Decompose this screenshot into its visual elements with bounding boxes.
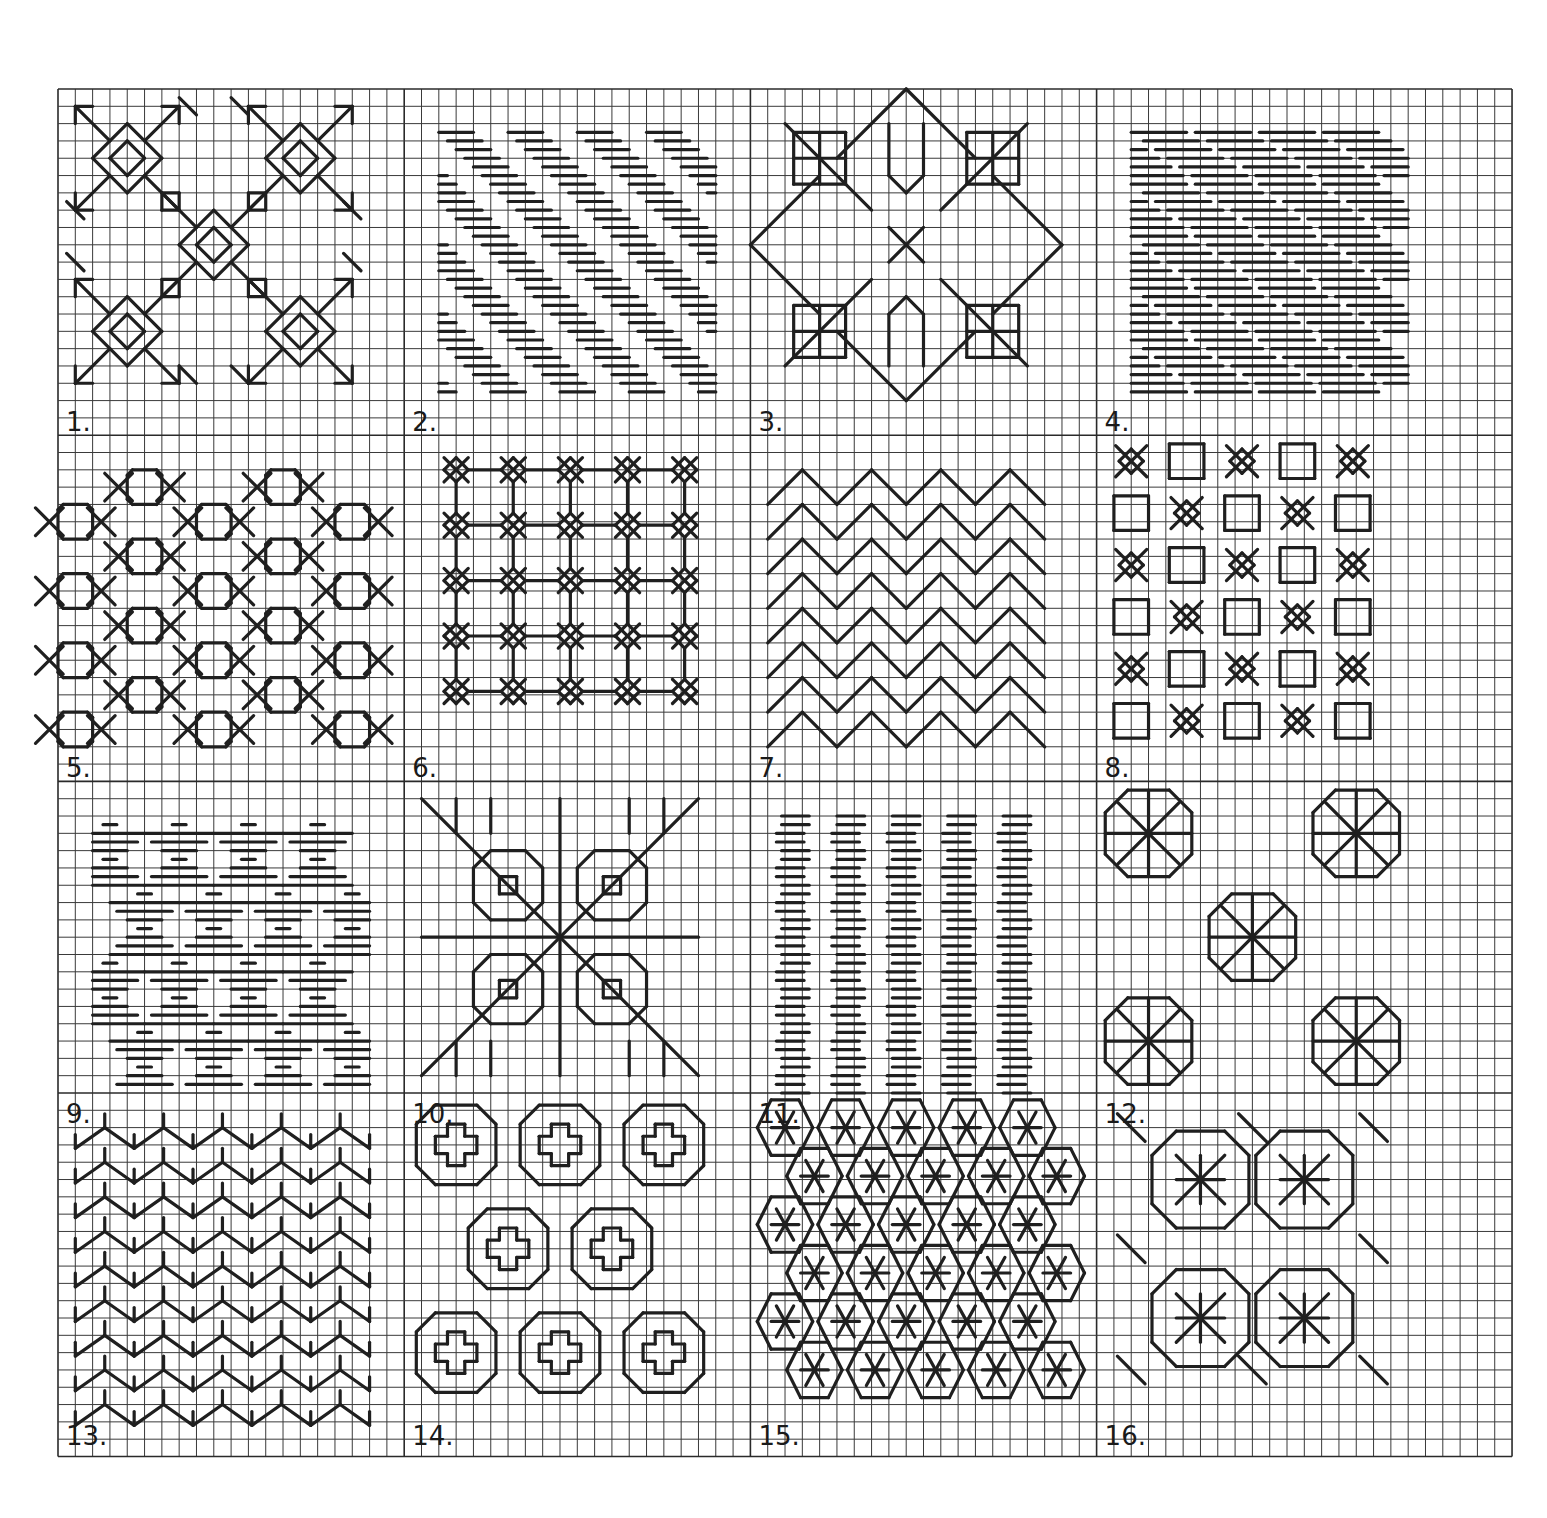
pattern-label: 6. xyxy=(412,753,437,783)
blackwork-sampler-sheet: 1.2.3.4.5.6.7.8.9.10.11.12.13.14.15.16. xyxy=(0,0,1547,1518)
pattern-label: 13. xyxy=(66,1421,107,1451)
pattern-label: 12. xyxy=(1105,1099,1146,1129)
pattern-label: 11. xyxy=(758,1099,799,1129)
pattern-label: 16. xyxy=(1105,1421,1146,1451)
pattern-label: 4. xyxy=(1105,407,1130,437)
pattern-label: 2. xyxy=(412,407,437,437)
pattern-label: 7. xyxy=(758,753,783,783)
pattern-label: 9. xyxy=(66,1099,91,1129)
stitch-patterns xyxy=(35,89,1408,1425)
pattern-label: 1. xyxy=(66,407,91,437)
pattern-label: 5. xyxy=(66,753,91,783)
pattern-label: 3. xyxy=(758,407,783,437)
pattern-label: 8. xyxy=(1105,753,1130,783)
pattern-label: 10. xyxy=(412,1099,453,1129)
pattern-label: 15. xyxy=(758,1421,799,1451)
pattern-label: 14. xyxy=(412,1421,453,1451)
